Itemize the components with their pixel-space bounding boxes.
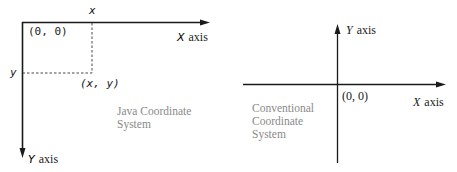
java-caption-line2: System — [117, 118, 191, 131]
conventional-caption: Conventional Coordinate System — [252, 102, 314, 141]
conventional-y-axis-arrow-icon — [335, 24, 341, 34]
conventional-y-axis-word: axis — [357, 23, 376, 37]
java-x-axis-word: axis — [189, 30, 208, 44]
conventional-origin-label: (0, 0) — [342, 90, 368, 102]
axes-drawing — [0, 0, 457, 172]
conventional-caption-line1: Conventional — [252, 102, 314, 115]
java-caption: Java Coordinate System — [117, 105, 191, 131]
java-y-axis-word: axis — [39, 152, 58, 166]
java-y-axis-letter: Y — [28, 153, 35, 166]
java-x-axis-arrow-icon — [200, 20, 210, 26]
conventional-caption-line2: Coordinate — [252, 115, 314, 128]
conventional-x-axis-word: axis — [424, 95, 443, 109]
conventional-caption-line3: System — [252, 128, 314, 141]
java-y-tick-label: y — [10, 67, 17, 78]
java-x-axis-label: X axis — [177, 28, 208, 44]
java-point-label: (x, y) — [80, 78, 120, 89]
java-x-axis-letter: X — [177, 31, 185, 44]
conventional-y-axis-letter: Y — [346, 23, 353, 37]
java-y-axis-arrow-icon — [20, 148, 26, 158]
java-x-tick-label: x — [89, 5, 96, 16]
conventional-x-axis-letter: X — [413, 95, 420, 109]
conventional-x-axis-label: X axis — [413, 93, 444, 109]
conventional-y-axis-label: Y axis — [346, 21, 376, 37]
java-y-axis-label: Y axis — [28, 150, 58, 166]
conventional-x-axis-arrow-icon — [436, 82, 446, 88]
java-caption-line1: Java Coordinate — [117, 105, 191, 118]
java-origin-label: (0, 0) — [28, 26, 68, 37]
coordinate-systems-figure: x (0, 0) y (x, y) X axis Y axis Java Coo… — [0, 0, 457, 172]
